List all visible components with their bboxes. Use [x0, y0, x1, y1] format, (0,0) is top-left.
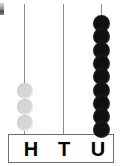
- bead-hundreds: [17, 99, 33, 115]
- column-label-hundreds: H: [24, 139, 38, 159]
- bead-hundreds: [17, 115, 33, 131]
- column-label-tens: T: [58, 139, 70, 159]
- corner-mark-icon: [0, 3, 4, 15]
- column-label-units: U: [91, 139, 105, 159]
- place-value-label-box: H T U: [8, 134, 114, 163]
- abacus-figure: H T U: [0, 0, 122, 166]
- bead-hundreds: [17, 83, 33, 99]
- abacus-rod-tens: [63, 4, 64, 138]
